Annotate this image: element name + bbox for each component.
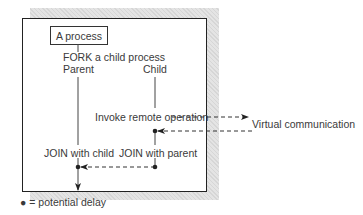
delay-dot [76, 165, 81, 170]
delay-dot [153, 129, 158, 134]
delay-dot [153, 165, 158, 170]
flow-lines [0, 0, 363, 215]
